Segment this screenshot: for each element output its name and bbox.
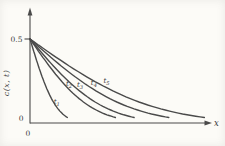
y-origin-label: 0 [19,114,24,123]
x-axis-label: x [214,118,219,128]
curve-t1 [30,39,67,118]
y-axis-arrow-icon [28,8,33,16]
diffusion-concentration-figure: 0.5 0 0 x c(x, t) t1t2t3t4t5 [0,0,225,146]
curve-label-t1: t1 [54,98,60,107]
curve-label-t5: t5 [103,77,109,86]
x-axis-arrow-icon [205,121,213,126]
chart-canvas: 0.5 0 0 x c(x, t) t1t2t3t4t5 [0,0,225,146]
curve-group: t1t2t3t4t5 [30,39,204,118]
y-max-tick-label: 0.5 [11,35,23,44]
x-origin-label: 0 [26,129,31,138]
y-axis-label: c(x, t) [2,70,11,96]
